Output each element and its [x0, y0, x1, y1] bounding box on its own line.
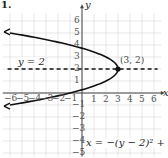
x-tick-label: 4: [127, 95, 133, 104]
x-tick-label: 3: [115, 95, 121, 104]
symmetry-line-label: y = 2: [18, 57, 45, 67]
axes: [3, 4, 165, 156]
y-tick-label: 3: [74, 52, 80, 61]
y-tick-label: −5: [72, 148, 85, 157]
y-tick-label: 1: [74, 76, 80, 85]
y-tick-label: 2: [74, 64, 80, 73]
x-tick-label: 5: [139, 95, 145, 104]
y-axis-label: y: [85, 0, 91, 10]
y-tick-label: −4: [72, 136, 85, 145]
y-tick-label: −2: [72, 112, 85, 121]
y-tick-label: −1: [72, 100, 85, 109]
x-axis-label: x: [163, 88, 168, 98]
vertex-label: (3, 2): [120, 56, 144, 65]
x-tick-label: 6: [151, 95, 157, 104]
y-tick-label: 4: [74, 40, 80, 49]
equation-label: x = −(y − 2)² + 3: [86, 138, 168, 148]
y-tick-label: −3: [72, 124, 85, 133]
figure-label: 1.: [1, 0, 11, 10]
x-tick-label: 2: [103, 95, 109, 104]
y-tick-label: 6: [74, 16, 80, 25]
y-tick-label: 5: [74, 28, 80, 37]
x-tick-label: 1: [91, 95, 97, 104]
